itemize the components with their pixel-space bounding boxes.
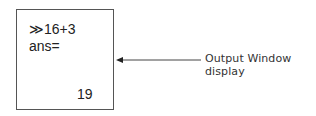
output-window-box: ≫16+3 ans= 19 <box>16 9 114 110</box>
result-value: 19 <box>77 86 93 102</box>
command-line: ≫16+3 <box>29 21 76 37</box>
annotation-label: Output Window display <box>205 52 316 78</box>
ans-label: ans= <box>29 38 60 54</box>
pointer-arrow-icon <box>115 54 205 66</box>
